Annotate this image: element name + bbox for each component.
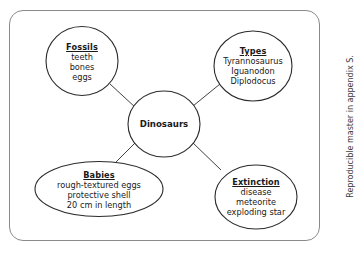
margin-note: Reproducible master in appendix S. [339, 0, 361, 253]
node-fossils[interactable]: Fossils teeth bones eggs [46, 27, 118, 96]
node-babies-heading: Babies [83, 170, 114, 180]
node-fossils-heading: Fossils [66, 42, 98, 52]
node-fossils-item-2: eggs [72, 72, 92, 82]
node-types[interactable]: Types Tyrannosaurus Iguanodon Diplodocus [214, 31, 292, 101]
node-types-item-2: Diplodocus [230, 76, 275, 86]
node-extinction-item-0: disease [240, 187, 271, 197]
node-babies[interactable]: Babies rough-textured eggs protective sh… [34, 162, 164, 217]
node-babies-item-2: 20 cm in length [67, 200, 131, 210]
node-babies-item-0: rough-textured eggs [57, 180, 141, 190]
margin-note-text: Reproducible master in appendix S. [346, 55, 355, 198]
page-root: Fossils teeth bones eggs Types Tyrannosa… [0, 0, 363, 253]
node-extinction-item-1: meteorite [236, 197, 276, 207]
node-center-dinosaurs[interactable]: Dinosaurs [128, 91, 200, 157]
node-types-item-0: Tyrannosaurus [223, 56, 283, 66]
node-types-heading: Types [240, 46, 267, 56]
node-types-item-1: Iguanodon [231, 66, 274, 76]
node-extinction-item-2: exploding star [227, 207, 286, 217]
node-babies-item-1: protective shell [67, 190, 130, 200]
node-fossils-item-1: bones [70, 62, 95, 72]
node-center-label: Dinosaurs [140, 119, 189, 129]
node-fossils-item-0: teeth [71, 52, 93, 62]
node-extinction-heading: Extinction [232, 177, 279, 187]
node-extinction[interactable]: Extinction disease meteorite exploding s… [215, 165, 297, 229]
